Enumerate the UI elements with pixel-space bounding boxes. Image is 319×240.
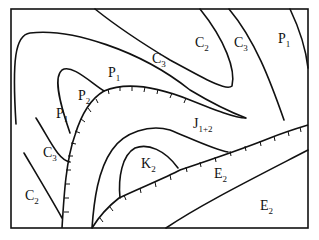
unit-label-c3-top: C3 [234,35,248,53]
geologic-map: C2C3P1C3P1P2P1C3C2J1+2K2E2E2 [0,0,319,240]
unit-label-subscript: 1 [64,114,69,124]
unit-label-subscript: 1 [116,73,121,83]
unit-label-e2-low: E2 [260,198,273,216]
unit-label-k2: K2 [141,156,156,174]
unit-label-c2-left: C2 [25,188,39,206]
unit-label-p1-left: P1 [56,106,68,124]
unit-label-e2-mid: E2 [214,166,227,184]
unit-label-subscript: 2 [269,206,274,216]
unit-label-subscript: 2 [204,43,209,53]
unit-label-subscript: 3 [243,43,248,53]
unit-label-p1-mid: P1 [108,65,120,83]
unit-label-subscript: 2 [151,164,156,174]
unit-label-c2-top: C2 [195,35,209,53]
unit-label-p2: P2 [78,88,90,106]
unit-label-subscript: 2 [223,174,228,184]
unit-label-subscript: 1 [286,39,291,49]
unit-label-j12: J1+2 [193,116,213,134]
unit-label-subscript: 2 [34,196,39,206]
unit-label-c3-left: C3 [43,145,57,163]
unit-label-subscript: 1+2 [198,124,212,134]
unit-label-subscript: 2 [86,96,91,106]
unit-label-p1-top: P1 [278,31,290,49]
unit-label-subscript: 3 [161,59,166,69]
unit-label-subscript: 3 [52,153,57,163]
